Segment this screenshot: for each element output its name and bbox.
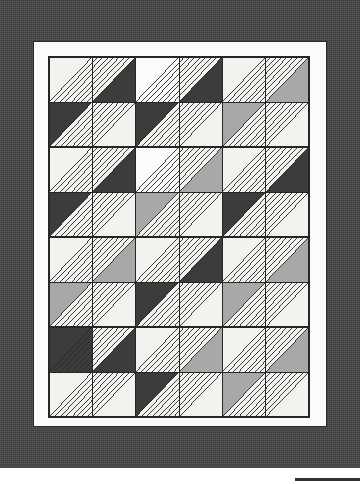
quilt-pattern-svg xyxy=(49,57,309,417)
quilt-top-grid xyxy=(48,56,310,418)
bottom-rule-mark xyxy=(295,478,360,481)
quilt-figure xyxy=(0,0,360,484)
figure-caption xyxy=(0,469,290,484)
